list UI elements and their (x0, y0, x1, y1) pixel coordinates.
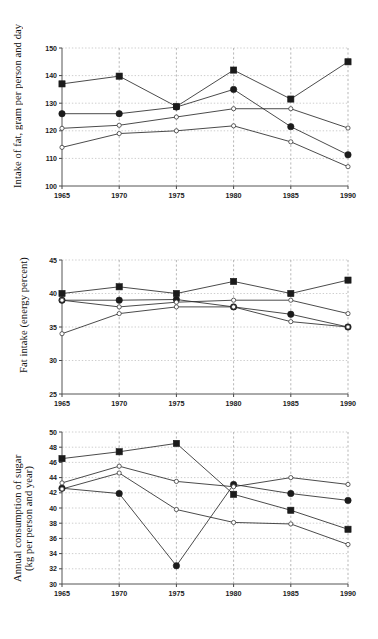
data-point-marker (116, 284, 122, 290)
data-point-marker (174, 305, 178, 309)
data-point-marker (60, 298, 64, 302)
y-tick-label: 42 (49, 489, 57, 496)
data-point-marker (60, 145, 64, 149)
data-point-marker (346, 126, 350, 130)
y-tick-label: 25 (49, 391, 57, 398)
data-point-marker (232, 520, 236, 524)
data-point-marker (289, 107, 293, 111)
series-line-series-open-circle-b (62, 307, 348, 334)
y-tick-label: 48 (49, 444, 57, 451)
y-tick-label: 32 (49, 565, 57, 572)
data-point-marker (60, 481, 64, 485)
data-point-marker (59, 81, 65, 87)
data-point-marker (289, 476, 293, 480)
chart-panel-fat-intake-grams: Intake of fat, gram per person and day 1… (0, 0, 378, 213)
data-point-marker (117, 471, 121, 475)
data-point-marker (116, 73, 122, 79)
x-tick-label: 1990 (340, 399, 356, 408)
y-tick-label: 120 (45, 127, 57, 134)
y-tick-label: 150 (45, 45, 57, 52)
data-point-marker (60, 487, 64, 491)
y-tick-label: 50 (49, 429, 57, 436)
x-tick-label: 1970 (111, 589, 127, 598)
data-point-marker (232, 305, 236, 309)
data-point-marker (59, 290, 65, 296)
x-tick-label: 1990 (340, 589, 356, 598)
data-point-marker (174, 479, 178, 483)
y-tick-label: 40 (49, 505, 57, 512)
series-line-series-filled-square (62, 280, 348, 293)
data-point-marker (346, 312, 350, 316)
chart-panel-fat-energy-percent: Fat intake (energy percent) 253035404519… (0, 213, 378, 421)
data-point-marker (117, 131, 121, 135)
data-point-marker (346, 482, 350, 486)
data-point-marker (116, 490, 122, 496)
y-tick-label: 36 (49, 535, 57, 542)
data-point-marker (345, 152, 351, 158)
chart-panel-sugar-consumption: Annual consumption of sugar (kg per pers… (0, 421, 378, 639)
data-point-marker (230, 86, 236, 92)
data-point-marker (174, 129, 178, 133)
x-tick-label: 1965 (54, 589, 70, 598)
data-point-marker (173, 440, 179, 446)
data-point-marker (173, 563, 179, 569)
y-tick-label: 40 (49, 290, 57, 297)
y-tick-label: 30 (49, 357, 57, 364)
data-point-marker (232, 107, 236, 111)
data-point-marker (288, 123, 294, 129)
figure-page: Intake of fat, gram per person and day 1… (0, 0, 378, 639)
data-point-marker (289, 522, 293, 526)
plot-area-chart-1: 2530354045196519701975198019851990 (0, 213, 378, 421)
data-point-marker (173, 290, 179, 296)
data-point-marker (117, 312, 121, 316)
data-point-marker (231, 278, 237, 284)
data-point-marker (345, 497, 351, 503)
y-tick-label: 46 (49, 459, 57, 466)
series-line-series-open-circle-a (62, 109, 348, 129)
data-point-marker (232, 485, 236, 489)
data-point-marker (232, 298, 236, 302)
data-point-marker (289, 320, 293, 324)
chart-svg-0: 1001101201301401501965197019751980198519… (0, 0, 378, 213)
y-tick-label: 44 (49, 474, 57, 481)
x-tick-label: 1985 (283, 191, 299, 200)
data-point-marker (232, 124, 236, 128)
x-tick-label: 1980 (226, 399, 242, 408)
x-tick-label: 1975 (168, 399, 184, 408)
y-tick-label: 35 (49, 324, 57, 331)
series-line-series-open-circle-b (62, 126, 348, 167)
x-tick-label: 1975 (168, 191, 184, 200)
data-point-marker (116, 297, 122, 303)
data-point-marker (174, 115, 178, 119)
data-point-marker (231, 67, 237, 73)
x-tick-label: 1970 (111, 399, 127, 408)
y-tick-label: 30 (49, 581, 57, 588)
series-line-series-filled-square (62, 62, 348, 107)
plot-area-chart-2: 3032343638404244464850196519701975198019… (0, 421, 378, 639)
x-tick-label: 1965 (54, 399, 70, 408)
x-tick-label: 1985 (283, 589, 299, 598)
data-point-marker (231, 491, 237, 497)
y-tick-label: 45 (49, 257, 57, 264)
data-point-marker (288, 96, 294, 102)
data-point-marker (59, 456, 65, 462)
y-tick-label: 140 (45, 72, 57, 79)
data-point-marker (289, 298, 293, 302)
x-tick-label: 1965 (54, 191, 70, 200)
data-point-marker (59, 110, 65, 116)
data-point-marker (345, 526, 351, 532)
data-point-marker (288, 507, 294, 513)
data-point-marker (345, 59, 351, 65)
data-point-marker (117, 123, 121, 127)
y-tick-label: 100 (45, 183, 57, 190)
data-point-marker (173, 104, 179, 110)
data-point-marker (345, 277, 351, 283)
x-tick-label: 1990 (340, 191, 356, 200)
x-tick-label: 1975 (168, 589, 184, 598)
data-point-marker (117, 464, 121, 468)
plot-area-chart-0: 1001101201301401501965197019751980198519… (0, 0, 378, 213)
data-point-marker (288, 311, 294, 317)
data-point-marker (60, 332, 64, 336)
data-point-marker (346, 165, 350, 169)
y-tick-label: 34 (49, 550, 57, 557)
